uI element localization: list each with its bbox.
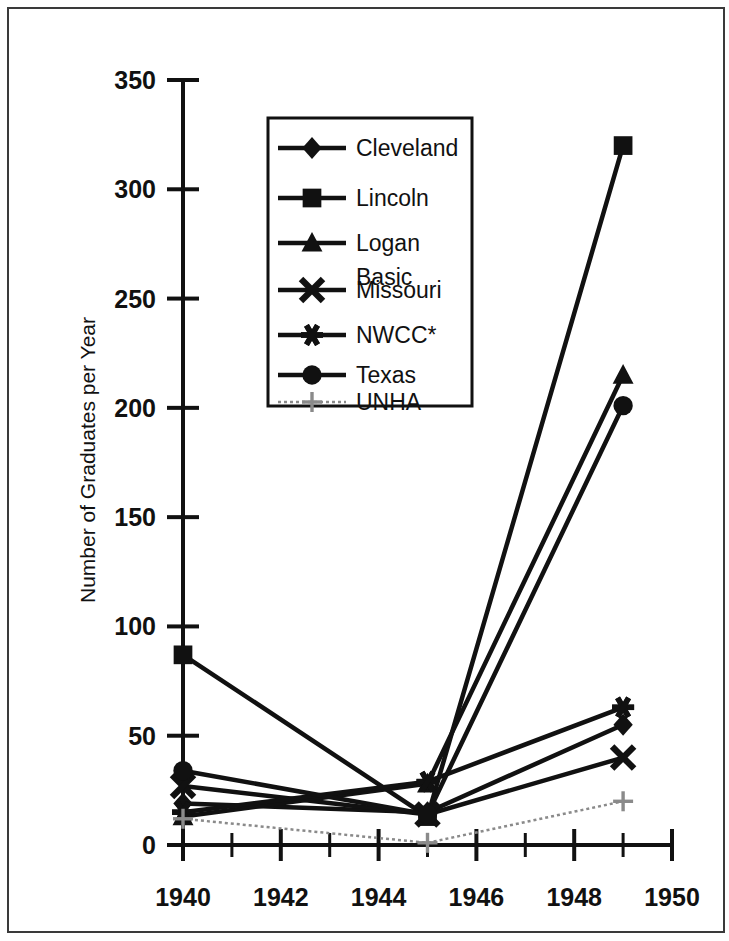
x-tick-label: 1946 [449,883,505,911]
y-tick-label: 200 [114,394,156,422]
x-tick-label: 1944 [351,883,407,911]
diamond-marker [613,714,632,736]
y-tick-label: 350 [114,66,156,94]
chart-page: 050100150200250300350 194019421944194619… [0,0,729,941]
y-tick-label: 0 [142,831,156,859]
series-line [183,707,623,812]
square-marker [303,189,322,208]
triangle-marker [613,364,634,384]
x-tick-label: 1948 [546,883,602,911]
circle-marker [173,761,192,780]
plus-marker [613,791,633,811]
y-tick-label: 300 [114,175,156,203]
legend-label[interactable]: UNHA [356,389,422,415]
plus-marker [418,833,438,853]
square-marker [614,136,633,155]
circle-marker [418,805,437,824]
circle-marker [302,365,321,384]
x-tick-label: 1940 [155,883,211,911]
series-line [183,375,623,817]
chart-legend: ClevelandLincolnLoganBasicMissouriNWCC*T… [268,118,472,415]
legend-label[interactable]: Missouri [356,277,442,303]
legend-label[interactable]: Logan [356,230,420,256]
legend-label[interactable]: NWCC* [356,322,437,348]
square-marker [174,645,193,664]
x-tick-label: 1950 [644,883,700,911]
y-axis-title: Number of Graduates per Year [76,317,99,603]
y-tick-label: 250 [114,285,156,313]
circle-marker [613,396,632,415]
y-tick-label: 50 [128,722,156,750]
y-axis-tick-labels: 050100150200250300350 [114,66,156,859]
line-chart: 050100150200250300350 194019421944194619… [0,0,729,941]
legend-label[interactable]: Cleveland [356,135,458,161]
x-axis-tick-labels: 194019421944194619481950 [155,883,700,911]
x-tick-label: 1942 [253,883,309,911]
y-tick-label: 100 [114,612,156,640]
y-tick-label: 150 [114,503,156,531]
legend-label[interactable]: Texas [356,362,416,388]
legend-label[interactable]: Lincoln [356,185,429,211]
